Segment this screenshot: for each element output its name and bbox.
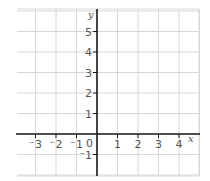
x-tick-label: 1 bbox=[114, 138, 121, 151]
y-axis-label: y bbox=[87, 9, 94, 20]
x-tick-label: 3 bbox=[155, 138, 162, 151]
x-tick-label: 4 bbox=[176, 138, 183, 151]
x-tick-label: ⁻3 bbox=[29, 138, 42, 151]
origin-label: 0 bbox=[86, 137, 93, 150]
y-tick-label: 4 bbox=[85, 46, 92, 59]
y-tick-label: ⁻1 bbox=[79, 149, 92, 162]
y-tick-label: 2 bbox=[85, 87, 92, 100]
grid-lines bbox=[17, 9, 200, 176]
coordinate-grid: ⁻3⁻2⁻1123412345⁻1 x y 0 bbox=[0, 0, 210, 181]
x-axis-label: x bbox=[188, 133, 194, 144]
y-tick-label: 5 bbox=[85, 26, 92, 39]
y-tick-label: 1 bbox=[85, 108, 92, 121]
y-tick-label: 3 bbox=[85, 67, 92, 80]
x-tick-label: ⁻2 bbox=[50, 138, 63, 151]
x-tick-label: 2 bbox=[135, 138, 142, 151]
